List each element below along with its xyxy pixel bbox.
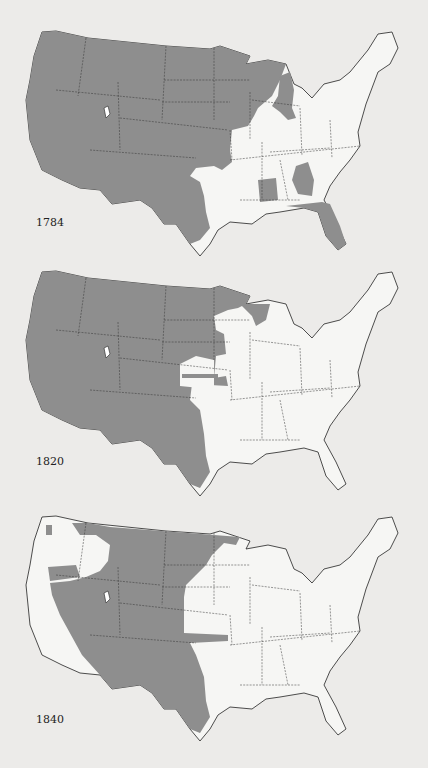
map-panel-1784: 1784 (0, 0, 428, 260)
unsettled-region-washington (46, 525, 52, 535)
unsettled-strip (182, 374, 218, 378)
us-map-1820 (0, 260, 428, 505)
us-map-1784 (0, 0, 428, 260)
map-year-label: 1784 (36, 216, 64, 229)
us-map-1840 (0, 505, 428, 768)
map-year-label: 1840 (36, 713, 64, 726)
map-panel-1840: 1840 (0, 505, 428, 768)
map-year-label: 1820 (36, 455, 64, 468)
unsettled-region-alabama-mississippi (258, 178, 278, 202)
map-panel-1820: 1820 (0, 260, 428, 505)
